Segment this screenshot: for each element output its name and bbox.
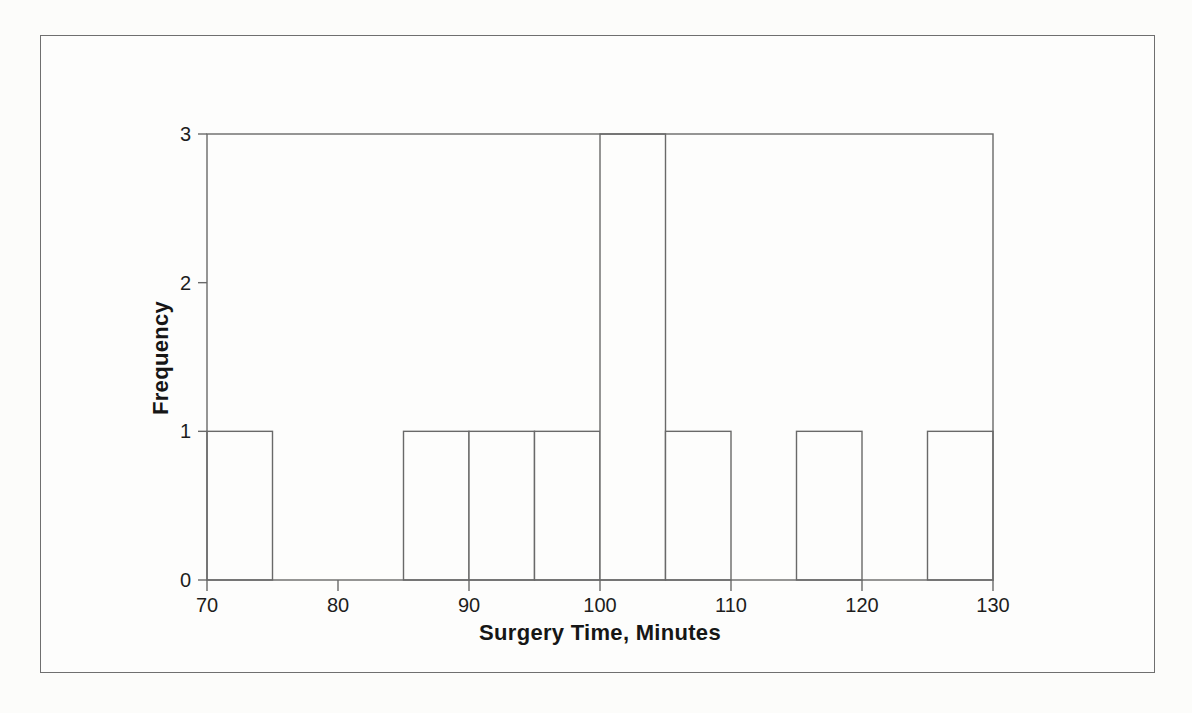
- histogram-chart: 7080901001101201300123: [0, 0, 1192, 713]
- histogram-bar: [928, 431, 994, 580]
- y-axis-label: Frequency: [148, 258, 174, 458]
- x-tick-label: 80: [327, 594, 349, 616]
- histogram-bar: [666, 431, 732, 580]
- histogram-bar: [469, 431, 535, 580]
- histogram-bar: [207, 431, 273, 580]
- y-tick-label: 0: [180, 569, 191, 591]
- y-tick-label: 2: [180, 272, 191, 294]
- histogram-bar: [797, 431, 863, 580]
- x-axis-label: Surgery Time, Minutes: [400, 620, 800, 646]
- x-tick-label: 110: [715, 594, 747, 616]
- histogram-bar: [600, 134, 666, 580]
- y-tick-label: 1: [180, 420, 191, 442]
- histogram-bar: [404, 431, 470, 580]
- x-tick-label: 100: [583, 594, 616, 616]
- x-tick-label: 70: [196, 594, 218, 616]
- y-tick-label: 3: [180, 123, 191, 145]
- x-tick-label: 120: [845, 594, 878, 616]
- histogram-bar: [535, 431, 601, 580]
- scanned-page: 7080901001101201300123 Surgery Time, Min…: [0, 0, 1192, 713]
- x-tick-label: 90: [458, 594, 480, 616]
- x-tick-label: 130: [976, 594, 1009, 616]
